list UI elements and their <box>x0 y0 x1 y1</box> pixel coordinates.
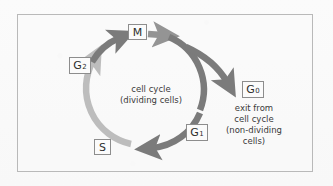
label-g2-text: G <box>73 60 82 71</box>
arrow-exit-to-g0 <box>186 47 227 82</box>
exit-caption: exit from cell cycle (non-dividing cells… <box>212 103 296 147</box>
cell-cycle-caption: cell cycle (dividing cells) <box>107 84 195 106</box>
label-g1-subscript: 1 <box>199 131 203 138</box>
exit-caption-line-4: cells) <box>212 136 296 147</box>
cell-cycle-caption-line-1: cell cycle <box>107 84 195 95</box>
exit-caption-line-3: (non-dividing <box>212 125 296 136</box>
label-m-text: M <box>133 27 143 38</box>
label-g0-text: G <box>246 84 255 95</box>
label-s[interactable]: S <box>94 139 111 155</box>
label-s-text: S <box>99 142 106 153</box>
label-m[interactable]: M <box>128 24 147 40</box>
label-g0-subscript: 0 <box>255 88 259 95</box>
label-g2[interactable]: G2 <box>69 57 91 74</box>
arrow-m-exit <box>148 34 162 35</box>
arrow-g2-to-m <box>92 38 119 62</box>
exit-caption-line-2: cell cycle <box>212 114 296 125</box>
label-g2-subscript: 2 <box>82 64 86 71</box>
label-g1-text: G <box>190 127 199 138</box>
label-g1[interactable]: G1 <box>186 124 208 141</box>
diagram-page: M G2 S G1 G0 cell cycle (dividing cells)… <box>0 0 333 186</box>
label-g0[interactable]: G0 <box>242 81 264 98</box>
cell-cycle-caption-line-2: (dividing cells) <box>107 95 195 106</box>
exit-caption-line-1: exit from <box>212 103 296 114</box>
